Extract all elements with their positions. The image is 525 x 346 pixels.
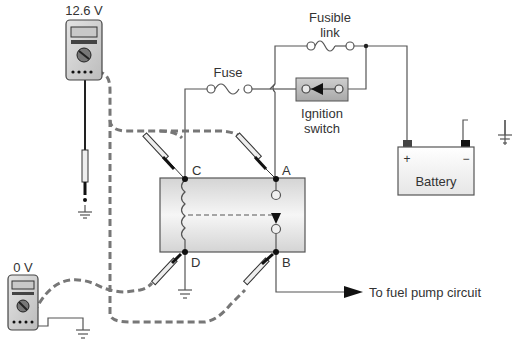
meter-top-reading: 12.6 V <box>65 3 103 18</box>
multimeter-top: 12.6 V <box>65 3 103 80</box>
ignition-switch-label-2: switch <box>304 121 340 136</box>
ignition-switch: Ignition switch <box>296 78 348 136</box>
output-arrow-icon <box>344 286 363 298</box>
meter-bottom-reading: 0 V <box>13 260 33 275</box>
fuse-label: Fuse <box>214 65 243 80</box>
terminal-b-label: B <box>282 255 291 270</box>
terminal-b-dot <box>273 249 279 255</box>
terminal-c-label: C <box>192 163 201 178</box>
multimeter-bottom: 0 V <box>8 260 38 330</box>
terminal-a-label: A <box>282 163 291 178</box>
meter-top-display <box>71 27 97 37</box>
probe-top-meter-ground <box>82 150 88 202</box>
ground-symbol-bottom-meter <box>76 330 90 338</box>
battery-negative-label: − <box>462 152 469 166</box>
meter-bottom-display <box>12 281 34 289</box>
fuel-pump-label: To fuel pump circuit <box>369 285 481 300</box>
fusible-link: Fusible link <box>307 10 368 51</box>
probe-d <box>152 254 181 285</box>
relay-test-diagram: Fusible link Fuse Ignition switch + − Ba… <box>0 0 525 346</box>
battery-label: Battery <box>415 174 457 189</box>
ground-symbol-battery <box>498 120 512 143</box>
probe-c <box>143 133 183 177</box>
battery-negative-terminal <box>461 140 470 147</box>
terminal-d-dot <box>182 249 188 255</box>
relay: C A D B <box>160 163 305 270</box>
terminal-d-label: D <box>191 255 200 270</box>
fusible-link-label-2: link <box>320 25 340 40</box>
fuse: Fuse <box>207 65 252 94</box>
ground-symbol-relay-d <box>178 290 192 298</box>
battery-positive-label: + <box>403 152 410 166</box>
battery-positive-terminal <box>403 140 412 147</box>
ignition-switch-label-1: Ignition <box>301 106 343 121</box>
ground-symbol-top-meter <box>78 205 92 218</box>
probe-a <box>236 133 274 177</box>
battery: + − Battery <box>398 140 474 195</box>
fuel-pump-output: To fuel pump circuit <box>344 285 481 300</box>
fusible-link-label-1: Fusible <box>309 10 351 25</box>
probe-b <box>244 254 273 285</box>
